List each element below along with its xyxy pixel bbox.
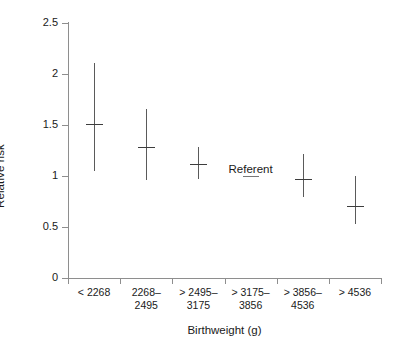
confidence-interval-line bbox=[94, 63, 95, 171]
y-axis-tick bbox=[62, 227, 68, 228]
x-axis-tick bbox=[172, 278, 173, 284]
confidence-interval-line bbox=[303, 154, 304, 198]
y-axis-tick-label-text: 2 bbox=[26, 68, 58, 79]
y-axis-tick bbox=[62, 23, 68, 24]
y-axis-tick-label: 1 bbox=[26, 170, 58, 182]
y-axis-tick-label-text: 1.5 bbox=[26, 119, 58, 130]
y-axis-line bbox=[68, 22, 69, 279]
point-estimate-marker bbox=[138, 147, 155, 148]
confidence-interval-line bbox=[355, 176, 356, 224]
y-axis-tick-label: 0 bbox=[26, 272, 58, 284]
relative-risk-chart: Relative risk 00.511.522.5 < 22682268– 2… bbox=[0, 0, 404, 352]
y-axis-tick-label: 2.5 bbox=[26, 17, 58, 29]
y-axis-tick-label-text: 0 bbox=[26, 272, 58, 283]
confidence-interval-line bbox=[146, 109, 147, 180]
referent-annotation: Referent bbox=[229, 163, 273, 175]
y-axis-tick bbox=[62, 74, 68, 75]
x-axis-tick bbox=[120, 278, 121, 284]
y-axis-tick bbox=[62, 125, 68, 126]
point-estimate-marker bbox=[86, 124, 103, 125]
x-axis-category-label: > 4536 bbox=[324, 286, 386, 299]
y-axis-tick-label-text: 2.5 bbox=[26, 17, 58, 28]
x-axis-tick bbox=[329, 278, 330, 284]
point-estimate-marker bbox=[190, 164, 207, 165]
y-axis-tick-label: 1.5 bbox=[26, 119, 58, 131]
point-estimate-marker bbox=[295, 179, 312, 180]
y-axis-tick-label: 2 bbox=[26, 68, 58, 80]
x-axis-tick bbox=[277, 278, 278, 284]
x-axis-tick bbox=[381, 278, 382, 284]
x-axis-tick bbox=[68, 278, 69, 284]
x-axis-tick bbox=[225, 278, 226, 284]
point-estimate-marker bbox=[347, 206, 364, 207]
y-axis-tick bbox=[62, 176, 68, 177]
y-axis-tick-label: 0.5 bbox=[26, 221, 58, 233]
referent-marker bbox=[243, 176, 259, 177]
y-axis-tick-label-text: 0.5 bbox=[26, 221, 58, 232]
x-axis-title: Birthweight (g) bbox=[68, 324, 381, 336]
y-axis-tick-label-text: 1 bbox=[26, 170, 58, 181]
